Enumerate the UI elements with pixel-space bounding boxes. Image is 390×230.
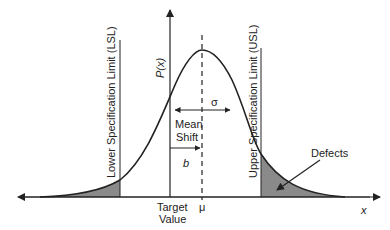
lsl-label: Lower Specification Limit (LSL) [105, 26, 117, 178]
mean-shift-label-line1: Mean [175, 118, 203, 130]
mean-shift-label-line2: Shift [176, 131, 198, 143]
b-label: b [183, 157, 189, 169]
usl-defect-area [261, 154, 345, 197]
diagram-canvas: P(x) x Lower Specification Limit (LSL) U… [0, 0, 390, 230]
x-axis-label: x [360, 204, 367, 216]
defects-label: Defects [311, 147, 349, 159]
sigma-label: σ [211, 96, 218, 108]
usl-label: Upper Specification Limit (USL) [247, 25, 259, 178]
target-label-line1: Target [157, 201, 188, 213]
mu-label: μ [199, 201, 205, 213]
process-capability-diagram: P(x) x Lower Specification Limit (LSL) U… [0, 0, 390, 230]
y-axis-label: P(x) [154, 58, 166, 79]
defects-pointer [277, 160, 320, 190]
lsl-defect-area [40, 180, 120, 197]
target-label-line2: Value [159, 213, 186, 225]
